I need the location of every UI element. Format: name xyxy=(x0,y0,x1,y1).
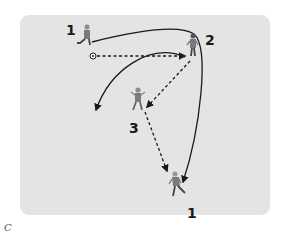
player-label-3: 3 xyxy=(129,121,139,135)
player-icon-1-end xyxy=(169,171,185,196)
player-icon-3 xyxy=(131,87,145,110)
player-label-2: 2 xyxy=(205,33,215,47)
player-label-1-start: 1 xyxy=(66,23,76,37)
run-path-player1 xyxy=(92,29,202,182)
ball-icon xyxy=(90,53,96,59)
drill-diagram xyxy=(0,0,282,241)
figure-caption: C xyxy=(4,222,12,233)
player-label-1-end: 1 xyxy=(187,206,197,220)
pass-3-to-1 xyxy=(145,112,167,171)
player-icon-1-start xyxy=(77,25,90,46)
pass-2-to-3 xyxy=(147,61,190,107)
